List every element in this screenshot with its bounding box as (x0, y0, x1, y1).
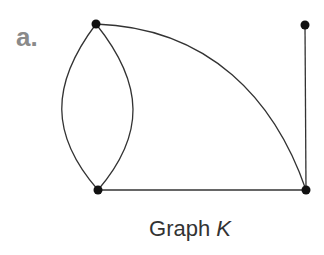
caption-variable: K (216, 216, 231, 241)
edge-v1-v4-arc (96, 24, 306, 190)
edge-v1-v3-left (62, 24, 98, 190)
edge-v2-v4 (305, 25, 306, 190)
edge-v1-v3-right (96, 24, 133, 190)
vertex-v3 (94, 186, 103, 195)
vertex-v2 (301, 21, 310, 30)
vertex-v4 (302, 186, 311, 195)
graph-caption: Graph K (0, 216, 324, 242)
vertex-v1 (92, 20, 101, 29)
caption-text: Graph (149, 216, 216, 241)
